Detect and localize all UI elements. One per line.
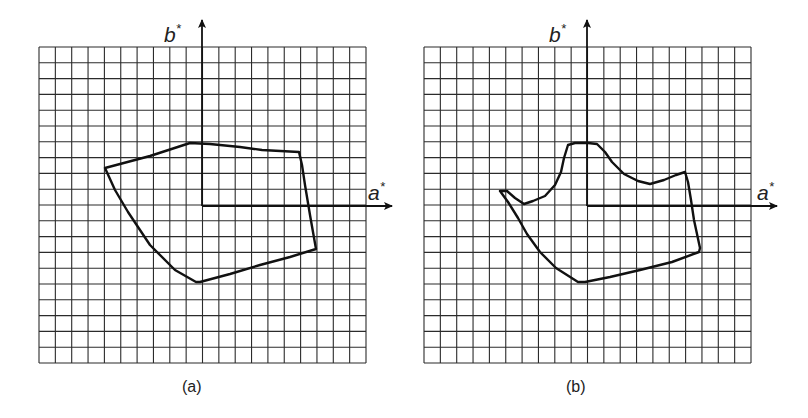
caption-b: (b) xyxy=(566,378,586,395)
b-star-label-b: b* xyxy=(549,21,567,46)
gamut-figure: b* a* (a) b* a* (b) xyxy=(0,0,808,418)
a-star-label-b: a* xyxy=(757,179,775,204)
panel-b: b* a* (b) xyxy=(424,20,777,395)
a-star-label-a: a* xyxy=(368,179,386,204)
b-star-label-a: b* xyxy=(164,21,182,46)
gamut-outline-b xyxy=(500,143,700,282)
panel-a: b* a* (a) xyxy=(39,20,392,395)
caption-a: (a) xyxy=(182,378,202,395)
